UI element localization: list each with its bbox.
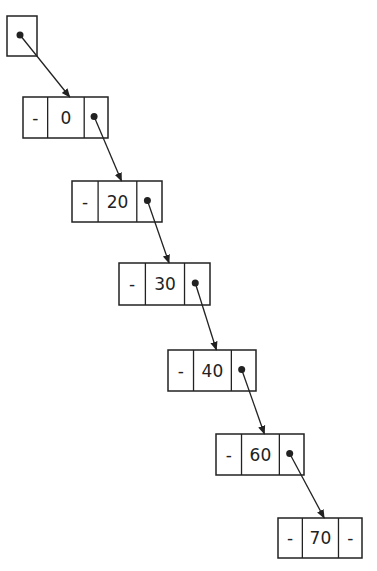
next-pointer-arrow [290, 454, 325, 519]
prev-field: - [32, 108, 38, 128]
list-node-0: -0 [23, 97, 108, 138]
list-node-20: -20 [72, 181, 162, 222]
next-pointer-arrow [20, 35, 70, 97]
prev-field: - [226, 445, 232, 465]
value-field: 60 [250, 445, 272, 465]
linked-list-diagram: -0-20-30-40-60-70- [0, 0, 377, 571]
list-node-40: -40 [168, 350, 256, 391]
value-field: 20 [107, 192, 129, 212]
prev-field: - [82, 192, 88, 212]
list-node-30: -30 [119, 263, 210, 305]
value-field: 0 [61, 108, 72, 128]
prev-field: - [287, 528, 293, 548]
prev-field: - [178, 361, 184, 381]
value-field: 30 [154, 274, 176, 294]
prev-field: - [129, 274, 135, 294]
value-field: 40 [202, 361, 224, 381]
value-field: 70 [310, 528, 332, 548]
next-field: - [347, 528, 353, 548]
list-node-70: -70- [278, 518, 362, 558]
